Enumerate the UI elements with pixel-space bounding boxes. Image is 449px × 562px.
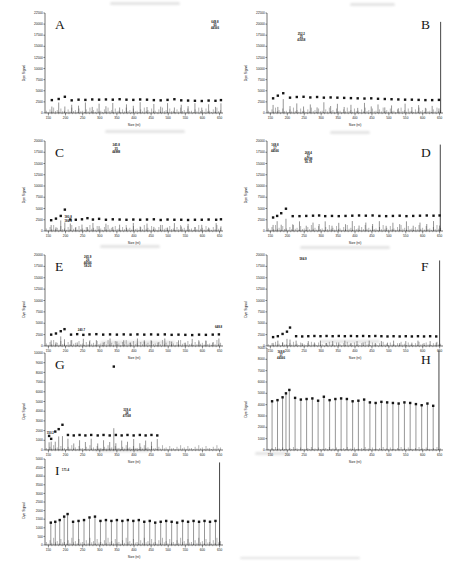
svg-text:600: 600 [200, 116, 206, 120]
panel-letter-e: E [55, 259, 63, 274]
svg-text:4000: 4000 [36, 409, 43, 413]
svg-text:350: 350 [114, 234, 120, 238]
svg-text:650: 650 [437, 453, 443, 457]
figure-page: 2250020000175001500012500100007500500025… [0, 0, 449, 562]
panel-b-scatter-plot: 2250020000175001500012500100007500500025… [242, 6, 448, 128]
svg-text:12500: 12500 [256, 287, 265, 291]
svg-text:5000: 5000 [36, 89, 43, 93]
svg-text:250: 250 [80, 116, 86, 120]
svg-text:3000: 3000 [36, 492, 43, 496]
svg-text:44566: 44566 [211, 26, 219, 30]
svg-text:450: 450 [148, 234, 154, 238]
svg-text:400: 400 [352, 116, 358, 120]
svg-text:44988: 44988 [112, 150, 120, 154]
svg-text:Dye Signal: Dye Signal [22, 187, 26, 204]
svg-text:150: 150 [268, 234, 274, 238]
svg-text:450: 450 [148, 116, 154, 120]
svg-text:600: 600 [420, 453, 426, 457]
svg-text:10000: 10000 [34, 184, 43, 188]
svg-text:600: 600 [420, 234, 426, 238]
svg-text:1500: 1500 [36, 517, 43, 521]
svg-text:450: 450 [369, 453, 375, 457]
svg-text:7500: 7500 [258, 310, 265, 314]
svg-text:300: 300 [318, 234, 324, 238]
svg-text:200: 200 [63, 234, 69, 238]
panel-letter-h: H [421, 352, 431, 367]
svg-text:500: 500 [386, 453, 392, 457]
svg-text:20000: 20000 [34, 253, 43, 257]
svg-text:2500: 2500 [258, 100, 265, 104]
svg-text:500: 500 [386, 116, 392, 120]
svg-text:4000: 4000 [258, 403, 265, 407]
svg-text:5000: 5000 [258, 321, 265, 325]
svg-text:2500: 2500 [258, 333, 265, 337]
svg-text:9000: 9000 [36, 361, 43, 365]
svg-text:200: 200 [285, 116, 291, 120]
svg-text:584.9: 584.9 [299, 257, 307, 261]
svg-text:150: 150 [268, 116, 274, 120]
svg-text:47568: 47568 [123, 414, 131, 418]
svg-text:5000: 5000 [258, 391, 265, 395]
svg-text:Dye Signal: Dye Signal [244, 301, 248, 318]
svg-text:2500: 2500 [258, 218, 265, 222]
panel-letter-f: F [421, 259, 429, 274]
svg-text:450: 450 [369, 116, 375, 120]
svg-text:400: 400 [131, 116, 137, 120]
svg-text:250: 250 [302, 453, 308, 457]
print-artifact [105, 130, 185, 133]
svg-text:10000: 10000 [34, 299, 43, 303]
svg-text:10000: 10000 [256, 67, 265, 71]
svg-text:350: 350 [335, 453, 341, 457]
svg-text:300: 300 [318, 453, 324, 457]
svg-text:12500: 12500 [34, 173, 43, 177]
svg-text:350: 350 [335, 234, 341, 238]
svg-text:500: 500 [166, 548, 172, 552]
svg-text:17500: 17500 [256, 150, 265, 154]
svg-text:550: 550 [403, 234, 409, 238]
svg-text:12500: 12500 [256, 56, 265, 60]
svg-text:17500: 17500 [34, 150, 43, 154]
svg-text:8000: 8000 [36, 371, 43, 375]
svg-text:2000: 2000 [258, 425, 265, 429]
svg-text:450: 450 [369, 234, 375, 238]
svg-text:0: 0 [41, 543, 43, 547]
svg-text:5000: 5000 [258, 89, 265, 93]
panel-g-scatter-plot: 1000090008000700060005000400030002000100… [20, 346, 228, 465]
panel-c-scatter-plot: 2000017500150001250010000750050002500015… [20, 134, 228, 246]
svg-text:Size (nt): Size (nt) [349, 460, 362, 464]
svg-text:350: 350 [114, 548, 120, 552]
svg-text:5000: 5000 [36, 400, 43, 404]
svg-text:Dye Signal: Dye Signal [22, 403, 26, 420]
svg-text:20000: 20000 [256, 139, 265, 143]
svg-text:4000: 4000 [36, 474, 43, 478]
svg-text:150: 150 [46, 548, 52, 552]
svg-text:Dye Signal: Dye Signal [22, 301, 26, 318]
svg-text:56.78: 56.78 [305, 160, 313, 164]
svg-text:400: 400 [352, 453, 358, 457]
svg-text:Size (nt): Size (nt) [349, 241, 362, 245]
svg-text:Dye Signal: Dye Signal [22, 502, 26, 519]
svg-text:20000: 20000 [34, 22, 43, 26]
svg-text:7000: 7000 [258, 369, 265, 373]
svg-text:650: 650 [437, 116, 443, 120]
panel-h-scatter-plot: 9000800070006000500040003000200010000150… [242, 341, 448, 465]
svg-text:43058: 43058 [297, 38, 305, 42]
svg-text:400: 400 [352, 234, 358, 238]
panel-letter-a: A [55, 17, 65, 32]
svg-text:0: 0 [263, 448, 265, 452]
svg-text:240.7: 240.7 [78, 328, 86, 332]
svg-text:0: 0 [263, 111, 265, 115]
svg-text:9000: 9000 [258, 346, 265, 350]
svg-text:5000: 5000 [258, 207, 265, 211]
panel-d-scatter-plot: 2000017500150001250010000750050002500015… [242, 134, 448, 246]
panel-a-scatter-plot: 2250020000175001500012500100007500500025… [20, 6, 228, 128]
svg-text:20000: 20000 [256, 253, 265, 257]
svg-text:5000: 5000 [36, 207, 43, 211]
svg-text:150.2: 150.2 [47, 431, 55, 435]
svg-text:150: 150 [46, 116, 52, 120]
chart-svg-e: 2000017500150001250010000750050002500015… [20, 248, 228, 361]
svg-text:Dye Signal: Dye Signal [244, 187, 248, 204]
svg-text:400: 400 [131, 548, 137, 552]
chart-svg-c: 2000017500150001250010000750050002500015… [20, 134, 228, 246]
svg-text:600: 600 [200, 234, 206, 238]
